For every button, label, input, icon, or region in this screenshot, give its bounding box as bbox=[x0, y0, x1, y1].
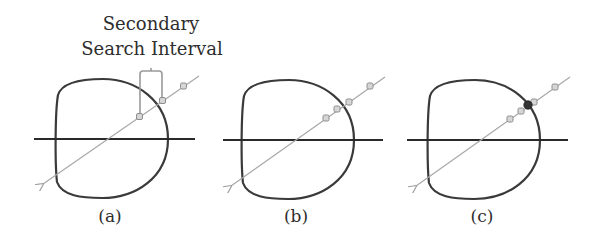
sample-point bbox=[552, 84, 558, 90]
panel-label-c: (c) bbox=[462, 205, 502, 227]
sample-point bbox=[507, 116, 513, 122]
panel-a bbox=[34, 68, 199, 198]
panel-b bbox=[223, 77, 385, 199]
annotation-line-2: Search Interval bbox=[72, 37, 232, 61]
sample-point bbox=[160, 98, 166, 104]
panel-label-a: (a) bbox=[90, 205, 130, 227]
panel-c bbox=[407, 77, 570, 199]
sample-point bbox=[334, 106, 340, 112]
sample-point bbox=[181, 83, 187, 89]
search-ray bbox=[231, 77, 385, 186]
sample-point bbox=[518, 108, 524, 114]
sample-point bbox=[367, 83, 373, 89]
search-ray bbox=[416, 77, 570, 186]
secondary-search-figure: Secondary Search Interval (a) (b) (c) bbox=[0, 0, 595, 244]
sample-point bbox=[346, 99, 352, 105]
annotation-line-1: Secondary bbox=[90, 12, 212, 36]
panel-label-b: (b) bbox=[276, 205, 316, 227]
search-ray bbox=[43, 76, 199, 184]
intersection-point bbox=[524, 101, 532, 109]
sample-point bbox=[137, 114, 143, 120]
sample-point bbox=[323, 115, 329, 121]
